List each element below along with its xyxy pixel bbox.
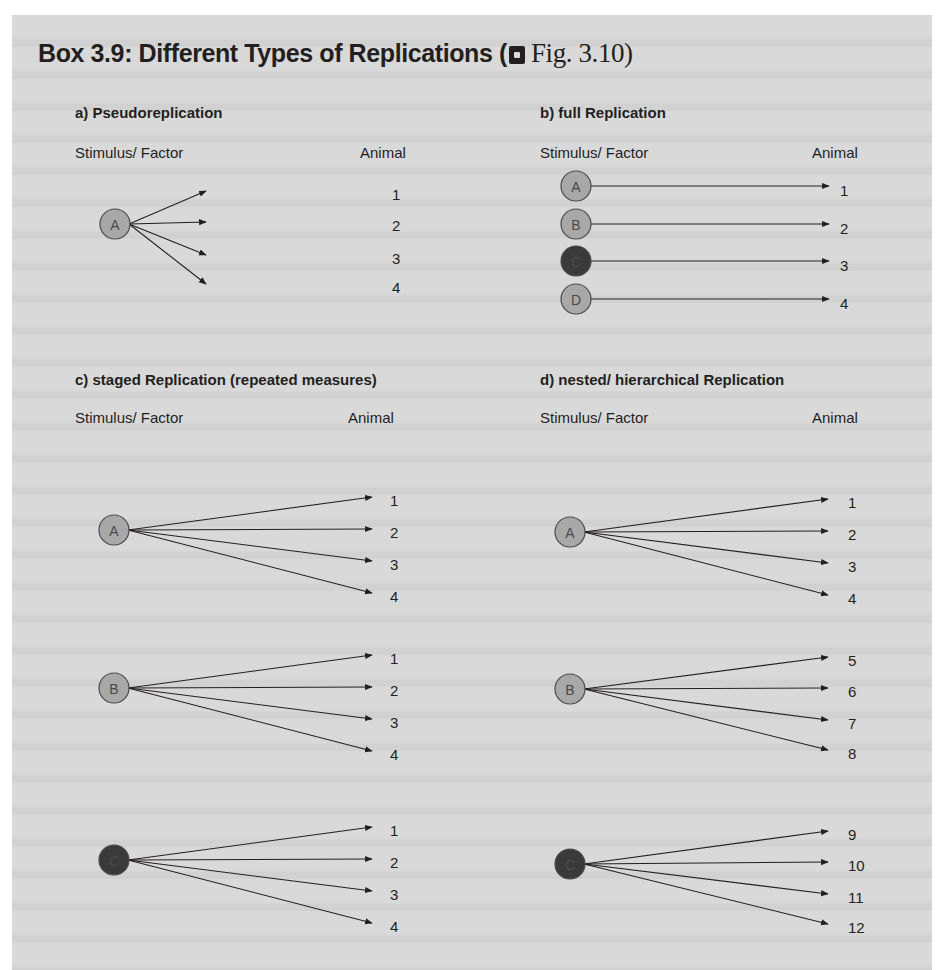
stimulus-node-label: C bbox=[565, 857, 575, 873]
animal-number: 12 bbox=[848, 919, 865, 936]
arrow-line bbox=[584, 499, 828, 532]
stimulus-node-label: A bbox=[109, 523, 119, 539]
animal-number: 4 bbox=[390, 588, 398, 605]
animal-number: 4 bbox=[848, 590, 856, 607]
panel-b-stimulus-node: A bbox=[561, 171, 591, 201]
arrow-line bbox=[584, 689, 828, 750]
arrow-line bbox=[128, 497, 372, 530]
arrow-line bbox=[584, 689, 828, 720]
stimulus-node-label: D bbox=[571, 292, 581, 308]
animal-number: 10 bbox=[848, 857, 865, 874]
animal-number: 3 bbox=[392, 250, 400, 267]
animal-number: 11 bbox=[848, 889, 864, 906]
panel-d-stimulus-node: A bbox=[555, 517, 585, 547]
stimulus-node-label: C bbox=[571, 254, 581, 270]
stimulus-node-label: B bbox=[571, 217, 580, 233]
panel-d-stimulus-node: C bbox=[555, 849, 585, 879]
animal-number: 3 bbox=[390, 886, 398, 903]
animal-number: 1 bbox=[840, 182, 848, 199]
animal-number: 4 bbox=[392, 279, 400, 296]
arrow-line bbox=[128, 688, 372, 719]
animal-number: 4 bbox=[390, 918, 398, 935]
animal-number: 4 bbox=[840, 295, 848, 312]
animal-number: 2 bbox=[390, 524, 398, 541]
animal-number: 3 bbox=[840, 257, 848, 274]
animal-number: 1 bbox=[390, 492, 398, 509]
animal-number: 6 bbox=[848, 683, 856, 700]
animal-number: 2 bbox=[848, 526, 856, 543]
arrow-line bbox=[129, 224, 206, 284]
animal-number: 2 bbox=[390, 854, 398, 871]
arrow-line bbox=[128, 687, 372, 688]
arrow-line bbox=[584, 532, 828, 595]
animal-number: 2 bbox=[390, 682, 398, 699]
stimulus-node-label: A bbox=[571, 179, 581, 195]
arrow-line bbox=[128, 860, 372, 923]
panel-b-stimulus-node: B bbox=[561, 209, 591, 239]
animal-number: 4 bbox=[390, 746, 398, 763]
panel-d-stimulus-node: B bbox=[555, 674, 585, 704]
panel-c-stimulus-node: B bbox=[99, 673, 129, 703]
arrow-line bbox=[584, 831, 828, 864]
replication-diagrams: 1234A1A2B3C4D1234A1234B1234C1234A5678B91… bbox=[0, 0, 942, 970]
arrow-line bbox=[584, 531, 828, 532]
stimulus-node-label: B bbox=[109, 681, 118, 697]
stimulus-node-label: C bbox=[109, 853, 119, 869]
arrow-line bbox=[584, 688, 828, 689]
arrow-line bbox=[128, 655, 372, 688]
animal-number: 9 bbox=[848, 826, 856, 843]
stimulus-node-label: B bbox=[565, 682, 574, 698]
panel-a-stimulus-node: A bbox=[100, 209, 130, 239]
animal-number: 3 bbox=[390, 714, 398, 731]
arrow-line bbox=[584, 864, 828, 924]
animal-number: 7 bbox=[848, 715, 856, 732]
stimulus-node-label: A bbox=[565, 525, 575, 541]
animal-number: 2 bbox=[840, 220, 848, 237]
arrow-line bbox=[128, 530, 372, 593]
arrow-line bbox=[129, 222, 206, 224]
animal-number: 1 bbox=[392, 186, 400, 203]
animal-number: 1 bbox=[390, 650, 398, 667]
arrow-line bbox=[129, 224, 206, 255]
arrow-line bbox=[584, 532, 828, 563]
animal-number: 3 bbox=[390, 556, 398, 573]
panel-b-stimulus-node: C bbox=[561, 246, 591, 276]
arrow-line bbox=[584, 657, 828, 689]
animal-number: 5 bbox=[848, 652, 856, 669]
animal-number: 8 bbox=[848, 745, 856, 762]
arrow-line bbox=[584, 864, 828, 894]
animal-number: 1 bbox=[848, 494, 856, 511]
panel-b-stimulus-node: D bbox=[561, 284, 591, 314]
panel-c-stimulus-node: C bbox=[99, 845, 129, 875]
arrow-line bbox=[129, 191, 206, 224]
arrow-line bbox=[128, 860, 372, 891]
arrow-line bbox=[128, 827, 372, 860]
panel-c-stimulus-node: A bbox=[99, 515, 129, 545]
animal-number: 3 bbox=[848, 558, 856, 575]
arrow-line bbox=[128, 688, 372, 751]
arrow-line bbox=[128, 859, 372, 860]
animal-number: 2 bbox=[392, 217, 400, 234]
arrow-line bbox=[584, 862, 828, 864]
animal-number: 1 bbox=[390, 822, 398, 839]
arrow-line bbox=[128, 530, 372, 561]
arrow-line bbox=[128, 529, 372, 530]
stimulus-node-label: A bbox=[110, 217, 120, 233]
